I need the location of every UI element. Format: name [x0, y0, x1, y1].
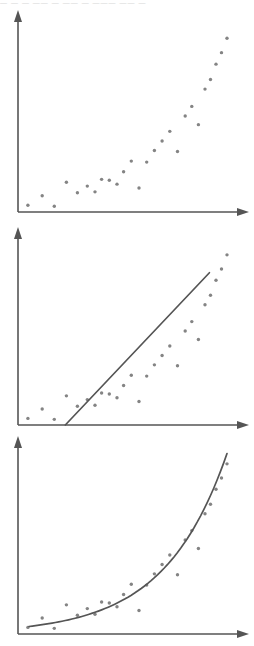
data-point — [153, 572, 156, 575]
data-point — [168, 130, 171, 133]
data-point — [26, 417, 29, 420]
panel-2-y-axis-arrow-icon — [14, 227, 22, 239]
data-point — [168, 553, 171, 556]
data-point — [197, 547, 200, 550]
data-point — [209, 294, 212, 297]
data-point — [108, 601, 111, 604]
data-point — [26, 204, 29, 207]
panel-3-axes — [14, 436, 249, 638]
data-point — [115, 605, 118, 608]
data-point — [197, 123, 200, 126]
data-point — [220, 51, 223, 54]
data-point — [214, 62, 217, 65]
data-point — [53, 418, 56, 421]
data-point — [115, 182, 118, 185]
data-point — [153, 149, 156, 152]
panel-3-data-points — [26, 462, 229, 630]
data-point — [41, 407, 44, 410]
data-point — [122, 170, 125, 173]
data-point — [41, 616, 44, 619]
data-point — [209, 78, 212, 81]
data-point — [203, 512, 206, 515]
data-point — [65, 181, 68, 184]
panel-3-exponential-fit-curve — [29, 454, 227, 627]
data-point — [53, 205, 56, 208]
data-point — [214, 488, 217, 491]
cropped-caption-sliver: — — — —— — —— — ——— —— — — [0, 0, 254, 5]
data-point — [130, 373, 133, 376]
data-point — [153, 363, 156, 366]
data-point — [137, 400, 140, 403]
data-point — [190, 320, 193, 323]
data-point — [225, 37, 228, 40]
data-point — [108, 392, 111, 395]
data-point — [176, 573, 179, 576]
data-point — [184, 329, 187, 332]
figure-canvas — [0, 0, 254, 646]
data-point — [160, 139, 163, 142]
data-point — [203, 303, 206, 306]
panel-1-x-axis-arrow-icon — [237, 208, 249, 216]
data-point — [220, 267, 223, 270]
data-point — [209, 503, 212, 506]
panel-2-axes — [14, 227, 249, 429]
data-point — [65, 603, 68, 606]
panel-1-y-axis-arrow-icon — [14, 10, 22, 22]
data-point — [176, 364, 179, 367]
panel-raw-scatter — [14, 10, 249, 216]
data-point — [176, 150, 179, 153]
data-point — [76, 614, 79, 617]
data-point — [122, 384, 125, 387]
data-point — [197, 338, 200, 341]
data-point — [108, 179, 111, 182]
data-point — [225, 253, 228, 256]
panel-exponential-fit-scatter — [14, 436, 249, 638]
data-point — [100, 391, 103, 394]
data-point — [145, 374, 148, 377]
panel-2-data-points — [26, 253, 229, 421]
data-point — [130, 582, 133, 585]
data-point — [225, 462, 228, 465]
panel-3-x-axis-arrow-icon — [237, 630, 249, 638]
data-point — [160, 354, 163, 357]
data-point — [53, 627, 56, 630]
data-point — [86, 607, 89, 610]
data-point — [190, 105, 193, 108]
panel-1-data-points — [26, 37, 229, 208]
data-point — [184, 114, 187, 117]
data-point — [220, 476, 223, 479]
panel-2-linear-fit-line — [65, 273, 209, 425]
data-point — [130, 159, 133, 162]
data-point — [137, 609, 140, 612]
data-point — [65, 394, 68, 397]
panel-3-y-axis-arrow-icon — [14, 436, 22, 448]
data-point — [122, 593, 125, 596]
data-point — [93, 404, 96, 407]
three-panel-scatter-figure: — — — —— — —— — ——— —— — — [0, 0, 254, 646]
data-point — [137, 186, 140, 189]
data-point — [100, 600, 103, 603]
data-point — [168, 344, 171, 347]
panel-2-x-axis-arrow-icon — [237, 421, 249, 429]
data-point — [145, 160, 148, 163]
data-point — [115, 396, 118, 399]
data-point — [203, 87, 206, 90]
data-point — [93, 190, 96, 193]
data-point — [76, 191, 79, 194]
data-point — [76, 405, 79, 408]
data-point — [86, 184, 89, 187]
data-point — [160, 563, 163, 566]
panel-linear-fit-scatter — [14, 227, 249, 429]
data-point — [100, 178, 103, 181]
panel-1-axes — [14, 10, 249, 216]
data-point — [41, 194, 44, 197]
data-point — [214, 279, 217, 282]
